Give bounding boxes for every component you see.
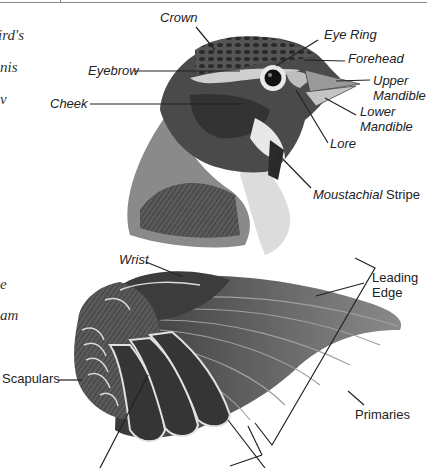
label-upper-mandible: Upper Mandible — [373, 73, 426, 103]
label-upper-mandible-line2: Mandible — [373, 88, 426, 103]
label-primaries: Primaries — [355, 407, 410, 422]
label-cheek: Cheek — [50, 96, 88, 111]
bird-head — [127, 36, 360, 255]
label-lower-mandible-line1: Lower — [360, 104, 413, 119]
label-scapulars: Scapulars — [2, 371, 60, 386]
label-lore: Lore — [330, 136, 356, 151]
label-eye-ring: Eye Ring — [324, 27, 377, 42]
label-wrist: Wrist — [119, 252, 149, 267]
label-lower-mandible: Lower Mandible — [360, 104, 413, 134]
label-moustachial-stripe: Moustachial Stripe — [313, 187, 420, 202]
label-forehead: Forehead — [348, 51, 404, 66]
label-crown: Crown — [160, 10, 198, 25]
label-moustachial-italic: Moustachial — [313, 187, 382, 202]
label-eyebrow: Eyebrow — [88, 63, 139, 78]
label-moustachial-plain: Stripe — [382, 187, 420, 202]
bird-wing — [74, 271, 401, 441]
label-leading-edge: Leading Edge — [372, 270, 418, 300]
label-leading-edge-line2: Edge — [372, 285, 418, 300]
label-upper-mandible-line1: Upper — [373, 73, 426, 88]
label-lower-mandible-line2: Mandible — [360, 119, 413, 134]
label-leading-edge-line1: Leading — [372, 270, 418, 285]
bird-anatomy-illustration — [0, 0, 427, 468]
